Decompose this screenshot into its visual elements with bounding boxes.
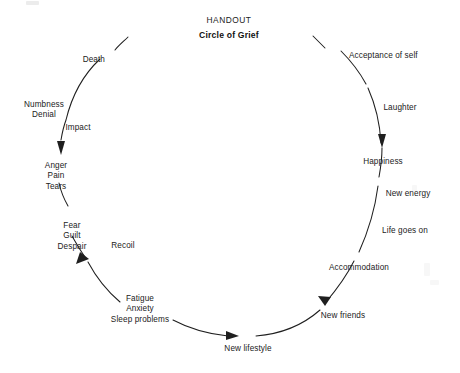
stage-label-impact: Impact xyxy=(65,123,90,133)
curve-segment-acceptance-stub xyxy=(313,36,325,48)
arrow-to-new-friends-head xyxy=(318,296,331,306)
stage-label-new-lifestyle: New lifestyle xyxy=(224,344,271,354)
handout-label: HANDOUT xyxy=(207,15,252,25)
curve-segment-death-stub xyxy=(115,37,128,50)
stage-label-numbness-denial: Numbness Denial xyxy=(24,100,64,121)
scan-artifact-right-a xyxy=(424,263,430,276)
arrow-to-happiness-head xyxy=(378,134,386,148)
scan-artifact-right-b xyxy=(430,280,439,285)
stage-label-accommodation: Accommodation xyxy=(329,263,389,273)
stage-label-new-energy: New energy xyxy=(386,189,431,199)
arrow-to-anger-head xyxy=(57,141,65,155)
stage-label-new-friends: New friends xyxy=(321,311,365,321)
stage-label-fear-guilt-despair: Fear Guilt Despair xyxy=(58,221,87,252)
curve-segment-accommodation-upper xyxy=(359,186,378,252)
stage-label-acceptance-of-self: Acceptance of self xyxy=(349,51,418,61)
stage-label-anger-pain-tears: Anger Pain Tears xyxy=(45,161,67,192)
curve-segment-fatigue-to-new-lifestyle xyxy=(173,320,228,336)
page-title: Circle of Grief xyxy=(199,30,259,40)
stage-label-recoil: Recoil xyxy=(111,241,134,251)
stage-label-happiness: Happiness xyxy=(363,157,403,167)
curve-segment-new-lifestyle-to-new-friends xyxy=(256,310,320,336)
scan-artifact-top-left xyxy=(26,1,39,5)
stage-label-fatigue-anxiety-sleep: Fatigue Anxiety Sleep problems xyxy=(111,294,169,325)
stage-label-life-goes-on: Life goes on xyxy=(382,226,428,236)
stage-label-laughter: Laughter xyxy=(383,103,416,113)
stage-label-death: Death xyxy=(83,55,105,65)
arrow-to-new-lifestyle-head xyxy=(226,331,239,340)
